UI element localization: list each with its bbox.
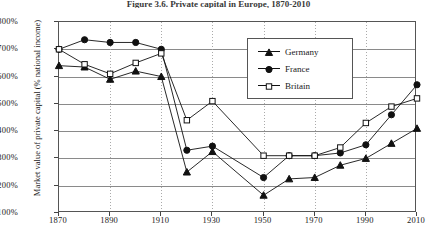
data-point-marker (107, 71, 112, 76)
chart-legend: GermanyFranceBritain (247, 38, 353, 99)
x-axis-tick-label: 1950 (243, 215, 283, 225)
legend-item-germany[interactable]: Germany (248, 43, 352, 60)
data-point-marker (56, 47, 61, 52)
data-point-marker (261, 153, 266, 158)
data-point-marker (133, 39, 139, 45)
data-point-marker (133, 60, 138, 65)
y-axis-tick-label: 400% (0, 125, 18, 135)
data-point-marker (107, 39, 113, 45)
legend-item-france[interactable]: France (248, 60, 352, 77)
y-axis-tick-label: 500% (0, 98, 18, 108)
x-axis-tick-label: 1870 (38, 215, 78, 225)
series-line (59, 40, 417, 178)
data-point-marker (132, 68, 139, 75)
data-point-marker (265, 48, 272, 55)
y-axis-tick-label: 600% (0, 71, 18, 81)
data-point-marker (184, 118, 189, 123)
series-germany (55, 62, 420, 198)
data-point-marker (159, 51, 164, 56)
data-point-marker (55, 62, 62, 69)
data-point-marker (363, 120, 368, 125)
y-axis-tick-label: 300% (0, 152, 18, 162)
x-axis-tick-label: 1890 (89, 215, 129, 225)
y-axis-tick-label: 800% (0, 16, 18, 26)
data-point-marker (81, 37, 87, 43)
series-layer (59, 22, 417, 213)
data-point-marker (337, 150, 343, 156)
chart-title: Figure 3.6. Private capital in Europe, 1… (0, 0, 437, 8)
data-point-marker (266, 66, 272, 72)
data-point-marker (260, 174, 266, 180)
legend-symbol (258, 81, 280, 92)
y-axis-tick-label: 200% (0, 180, 18, 190)
x-axis-tick-label: 1930 (191, 215, 231, 225)
data-point-marker (311, 174, 318, 181)
data-point-marker (266, 83, 271, 88)
data-point-marker (388, 140, 395, 147)
chart-root: Figure 3.6. Private capital in Europe, 1… (0, 0, 437, 247)
data-point-marker (338, 145, 343, 150)
plot-area (58, 21, 416, 212)
x-axis-tick-label: 1970 (294, 215, 334, 225)
legend-label: Britain (280, 81, 310, 91)
data-point-marker (414, 96, 419, 101)
x-axis-tick-label: 1910 (140, 215, 180, 225)
data-point-marker (363, 142, 369, 148)
data-point-marker (210, 98, 215, 103)
legend-marker-icon (258, 64, 280, 74)
y-axis-title: Market value of private capital (% natio… (32, 3, 42, 213)
legend-symbol (258, 64, 280, 75)
data-point-marker (209, 143, 215, 149)
legend-symbol (258, 47, 280, 58)
series-line (59, 66, 417, 196)
data-point-marker (82, 62, 87, 67)
y-axis-tick-label: 100% (0, 207, 18, 217)
data-point-marker (286, 153, 291, 158)
x-axis-tick-label: 1990 (345, 215, 385, 225)
data-point-marker (312, 153, 317, 158)
x-axis-tick-label: 2010 (396, 215, 436, 225)
legend-label: France (280, 64, 310, 74)
legend-marker-icon (258, 81, 280, 91)
data-point-marker (388, 112, 394, 118)
data-point-marker (362, 155, 369, 162)
data-point-marker (414, 82, 420, 88)
legend-item-britain[interactable]: Britain (248, 77, 352, 94)
data-point-marker (413, 125, 420, 132)
data-point-marker (389, 104, 394, 109)
legend-label: Germany (280, 47, 319, 57)
legend-marker-icon (258, 47, 280, 57)
y-axis-tick-label: 700% (0, 43, 18, 53)
data-point-marker (184, 147, 190, 153)
series-line (59, 49, 417, 155)
data-point-marker (183, 168, 190, 175)
